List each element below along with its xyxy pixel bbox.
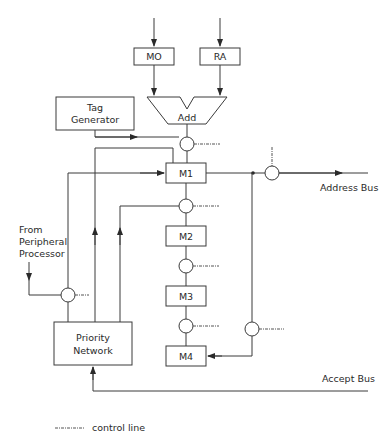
- priority-network-label-1: Priority: [76, 332, 110, 343]
- m1-label: M1: [179, 168, 193, 179]
- peripheral-label-1: From: [19, 224, 43, 235]
- peripheral-to-gate-line: [29, 280, 61, 295]
- peripheral-to-m1-line: [68, 173, 164, 288]
- legend-control-line-label: control line: [92, 422, 145, 433]
- peripheral-label-2: Peripheral: [19, 236, 67, 247]
- m4-register: M4: [166, 346, 206, 366]
- priority-network-label-2: Network: [73, 345, 113, 356]
- ra-register: RA: [200, 48, 240, 65]
- address-gate-circle: [265, 166, 279, 180]
- gate-circle-1: [180, 137, 194, 151]
- ra-label: RA: [214, 51, 227, 62]
- legend: control line: [55, 422, 145, 433]
- gate-circle-4: [179, 319, 193, 333]
- tag-generator: Tag Generator: [56, 97, 134, 130]
- m1-register: M1: [166, 163, 206, 183]
- feedback-to-m4-line: [208, 336, 252, 356]
- tag-generator-label-2: Generator: [71, 114, 119, 125]
- m2-register: M2: [166, 226, 206, 246]
- priority-network: Priority Network: [54, 322, 132, 365]
- gate-circle-2: [179, 199, 193, 213]
- tag-to-gate-line: [95, 130, 179, 137]
- gate-circle-3: [179, 259, 193, 273]
- m4-label: M4: [179, 351, 193, 362]
- diagram-canvas: MO RA Add Tag Generator M1 Address: [0, 0, 392, 448]
- m3-register: M3: [166, 286, 206, 306]
- mo-register: MO: [134, 48, 174, 65]
- mo-label: MO: [146, 51, 162, 62]
- priority-to-m1-line: [95, 148, 173, 322]
- add-label: Add: [178, 112, 196, 123]
- tag-generator-label-1: Tag: [86, 102, 103, 113]
- accept-bus-label: Accept Bus: [322, 373, 375, 384]
- m3-label: M3: [179, 291, 193, 302]
- m2-label: M2: [179, 231, 193, 242]
- address-bus-label: Address Bus: [320, 182, 378, 193]
- adder: Add: [147, 97, 227, 124]
- peripheral-gate-circle: [61, 288, 75, 302]
- peripheral-label-3: Processor: [19, 248, 65, 259]
- feedback-gate-circle: [245, 322, 259, 336]
